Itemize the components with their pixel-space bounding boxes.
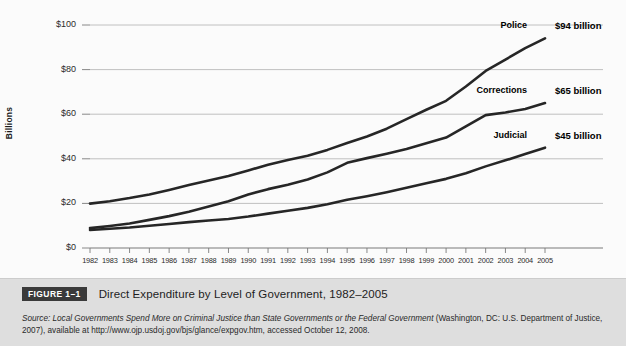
figure-source-note: Source: Local Governments Spend More on … <box>22 313 606 336</box>
series-end-value-police: $94 billion <box>555 20 601 31</box>
caption-title-row: FIGURE 1–1 Direct Expenditure by Level o… <box>22 287 388 301</box>
line-chart <box>0 0 626 278</box>
series-label-corrections: Corrections <box>455 85 527 95</box>
y-tick-label: $100 <box>32 19 76 29</box>
page-bottom-strip <box>0 346 626 360</box>
source-label: Source: <box>22 314 50 323</box>
series-end-value-judicial: $45 billion <box>555 130 601 141</box>
x-tick-label: 2005 <box>532 256 558 265</box>
y-tick-label: $40 <box>32 153 76 163</box>
y-axis-title: Billions <box>4 88 14 158</box>
figure-title: Direct Expenditure by Level of Governmen… <box>99 288 388 300</box>
y-tick-label: $80 <box>32 64 76 74</box>
y-tick-label: $20 <box>32 197 76 207</box>
chart-panel: Billions $0$20$40$60$80$100 198219831984… <box>0 0 626 278</box>
figure-caption-panel: FIGURE 1–1 Direct Expenditure by Level o… <box>0 278 626 347</box>
series-line-corrections <box>90 103 545 228</box>
y-tick-label: $60 <box>32 108 76 118</box>
series-end-value-corrections: $65 billion <box>555 85 601 96</box>
series-label-police: Police <box>455 20 527 30</box>
figure-number-badge: FIGURE 1–1 <box>22 287 87 301</box>
series-label-judicial: Judicial <box>455 130 527 140</box>
figure-container: Billions $0$20$40$60$80$100 198219831984… <box>0 0 626 360</box>
y-tick-label: $0 <box>32 242 76 252</box>
source-citation-title: Local Governments Spend More on Criminal… <box>53 314 434 323</box>
